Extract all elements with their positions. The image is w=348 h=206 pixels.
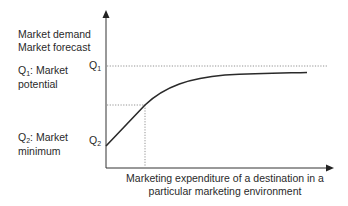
q1-description: : Market (30, 64, 68, 76)
y-axis-arrow-icon (103, 10, 110, 18)
y-axis-label-forecast: Market forecast (18, 41, 90, 54)
tick-q1-subscript: 1 (97, 65, 101, 72)
demand-curve (106, 73, 307, 147)
tick-q2: Q2 (89, 134, 101, 150)
x-axis-arrow-icon (326, 165, 334, 172)
tick-q2-subscript: 2 (97, 140, 101, 147)
q2-description: : Market (30, 131, 68, 143)
x-axis-label-line2: particular marketing environment (105, 185, 345, 198)
tick-q2-symbol: Q (89, 134, 97, 146)
y-axis-label-demand: Market demand (18, 28, 91, 41)
x-axis-label: Marketing expenditure of a destination i… (105, 172, 345, 198)
tick-q1-symbol: Q (89, 59, 97, 71)
x-axis-label-line1: Marketing expenditure of a destination i… (105, 172, 345, 185)
q2-legend-line2: minimum (18, 145, 61, 158)
q1-symbol: Q (18, 64, 26, 76)
q2-symbol: Q (18, 131, 26, 143)
tick-q1: Q1 (89, 59, 101, 75)
q1-legend-line2: potential (18, 78, 58, 91)
